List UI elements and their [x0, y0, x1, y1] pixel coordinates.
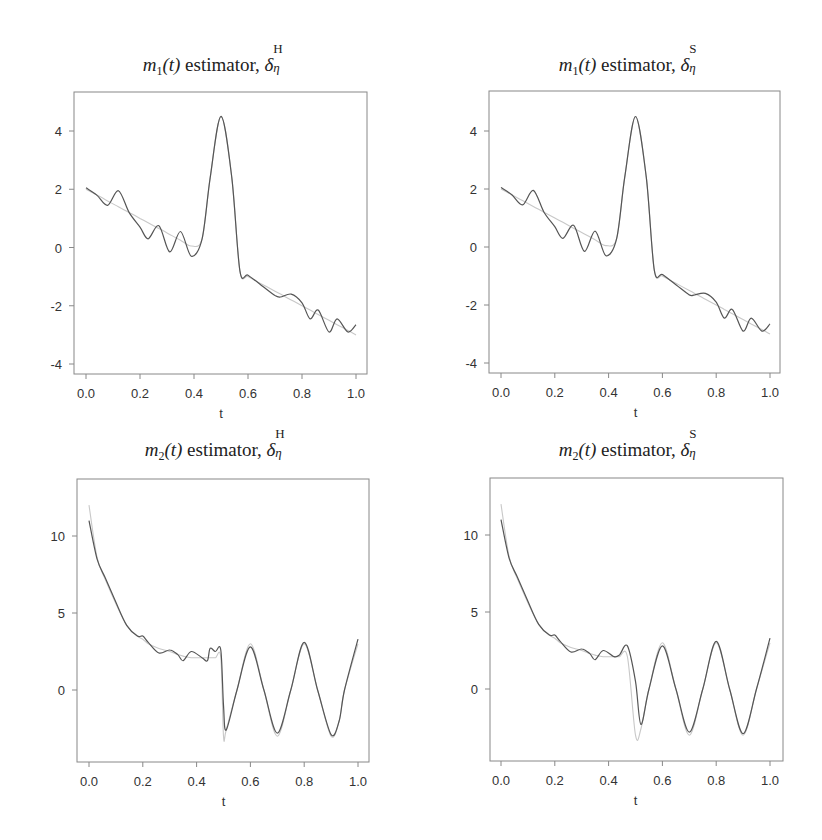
x-tick-label: 0.4 — [188, 774, 206, 789]
y-tick-label: 0 — [471, 682, 478, 697]
true-function-curve — [501, 504, 770, 740]
y-tick-label: 0 — [58, 683, 65, 698]
y-tick-label: -4 — [50, 357, 62, 372]
plot-frame — [490, 478, 783, 761]
x-axis-label: t — [634, 793, 638, 808]
panel-m2-H: 0.00.20.40.60.81.01050t — [51, 479, 369, 809]
x-tick-label: 0.0 — [77, 386, 95, 401]
y-tick-label: 10 — [464, 528, 478, 543]
estimate-curve — [501, 117, 770, 332]
x-tick-label: 1.0 — [349, 774, 367, 789]
estimate-curve — [86, 116, 356, 332]
y-tick-label: 4 — [55, 124, 62, 139]
y-tick-label: 10 — [51, 529, 65, 544]
x-tick-label: 0.2 — [134, 774, 152, 789]
y-tick-label: 5 — [58, 606, 65, 621]
x-tick-label: 1.0 — [347, 386, 365, 401]
x-axis-label: t — [634, 405, 638, 420]
x-tick-label: 1.0 — [761, 385, 779, 400]
y-tick-label: 0 — [55, 241, 62, 256]
x-tick-label: 0.8 — [707, 773, 725, 788]
x-tick-label: 0.0 — [492, 385, 510, 400]
x-tick-label: 0.6 — [241, 774, 259, 789]
x-tick-label: 0.6 — [239, 386, 257, 401]
x-tick-label: 0.4 — [600, 385, 618, 400]
y-tick-label: 2 — [470, 182, 477, 197]
x-tick-label: 0.4 — [185, 386, 203, 401]
x-tick-label: 1.0 — [761, 773, 779, 788]
x-axis-label: t — [222, 794, 226, 809]
y-tick-label: -4 — [465, 356, 477, 371]
panel-m1-H: 0.00.20.40.60.81.0420-2-4t — [50, 92, 367, 421]
plot-frame — [489, 91, 780, 373]
x-tick-label: 0.0 — [492, 773, 510, 788]
x-tick-label: 0.2 — [131, 386, 149, 401]
x-tick-label: 0.6 — [653, 385, 671, 400]
panel-m1-S: 0.00.20.40.60.81.0420-2-4t — [465, 91, 780, 420]
true-function-curve — [501, 117, 770, 335]
x-axis-label: t — [219, 406, 223, 421]
figure-canvas: 0.00.20.40.60.81.0420-2-4t0.00.20.40.60.… — [0, 0, 822, 840]
x-tick-label: 0.4 — [600, 773, 618, 788]
y-tick-label: 2 — [55, 182, 62, 197]
x-tick-label: 0.2 — [546, 773, 564, 788]
x-tick-label: 0.0 — [80, 774, 98, 789]
plot-frame — [74, 92, 367, 374]
y-tick-label: 4 — [470, 124, 477, 139]
y-tick-label: 0 — [470, 240, 477, 255]
y-tick-label: -2 — [465, 298, 477, 313]
y-tick-label: -2 — [50, 299, 62, 314]
panel-m2-S: 0.00.20.40.60.81.01050t — [464, 478, 783, 808]
x-tick-label: 0.8 — [707, 385, 725, 400]
estimate-curve — [501, 520, 770, 734]
x-tick-label: 0.8 — [293, 386, 311, 401]
true-function-curve — [86, 116, 356, 335]
x-tick-label: 0.6 — [653, 773, 671, 788]
x-tick-label: 0.8 — [295, 774, 313, 789]
x-tick-label: 0.2 — [546, 385, 564, 400]
estimate-curve — [89, 521, 358, 736]
y-tick-label: 5 — [471, 605, 478, 620]
